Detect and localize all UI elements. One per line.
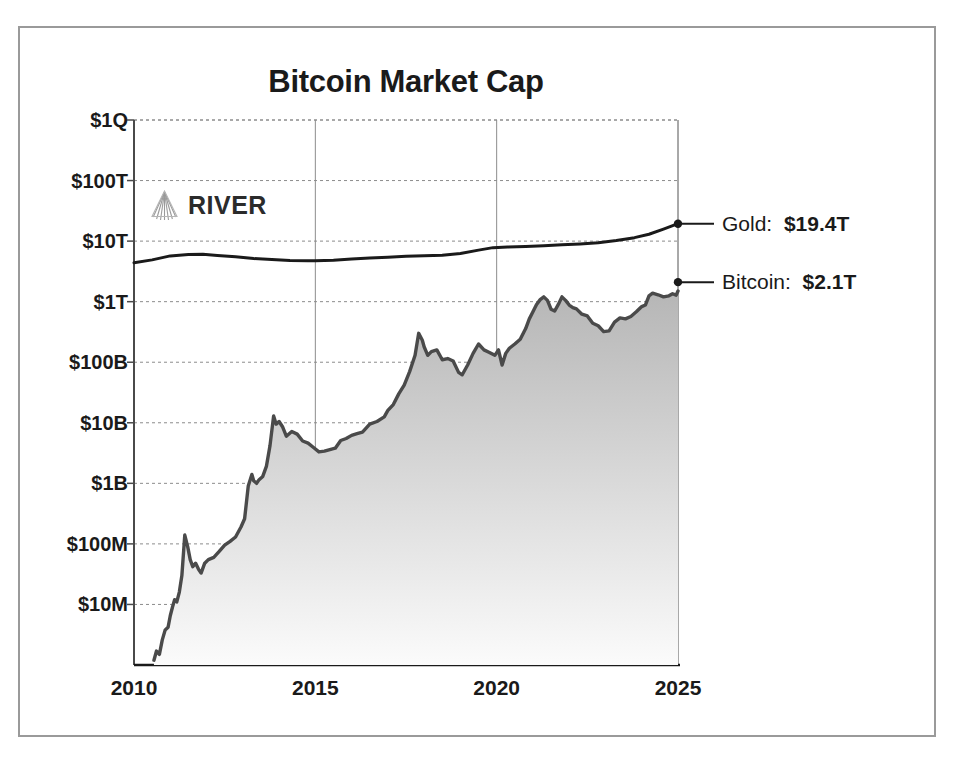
- x-tick-label: 2025: [633, 676, 723, 700]
- gold-line: [134, 224, 678, 263]
- x-tick-label: 2020: [452, 676, 542, 700]
- x-tick-label: 2010: [89, 676, 179, 700]
- x-tick-label: 2015: [270, 676, 360, 700]
- gold-callout-value: $19.4T: [784, 212, 849, 235]
- chart-plot: [0, 0, 953, 761]
- chart-page: Bitcoin Market Cap RIVER $10M$100M$1B$10…: [0, 0, 953, 761]
- bitcoin-callout-value: $2.1T: [803, 270, 857, 293]
- gold-endpoint-marker: [674, 219, 682, 227]
- bitcoin-callout: Bitcoin: $2.1T: [722, 270, 856, 294]
- gold-callout: Gold: $19.4T: [722, 212, 849, 236]
- bitcoin-endpoint-marker: [674, 278, 682, 286]
- callout-leader-lines: [674, 219, 714, 286]
- bitcoin-callout-label: Bitcoin:: [722, 270, 791, 293]
- gold-callout-label: Gold:: [722, 212, 772, 235]
- series-layer: [134, 224, 678, 665]
